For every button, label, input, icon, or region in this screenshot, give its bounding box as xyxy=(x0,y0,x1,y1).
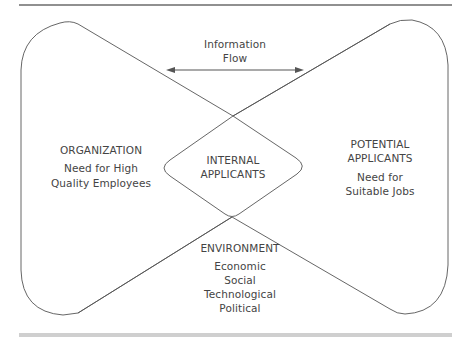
node-line: Need for xyxy=(330,170,430,184)
node-line: Social xyxy=(190,273,290,287)
node-line: Political xyxy=(190,301,290,315)
edge-label-line: Flow xyxy=(190,51,280,65)
node-title: INTERNAL xyxy=(183,153,283,167)
node-line: Quality Employees xyxy=(36,176,166,191)
information-flow-label: Information Flow xyxy=(190,37,280,65)
node-title: POTENTIAL xyxy=(330,137,430,151)
node-title: APPLICANTS xyxy=(330,151,430,165)
node-title: ENVIRONMENT xyxy=(190,241,290,255)
organization-label: ORGANIZATION Need for High Quality Emplo… xyxy=(36,143,166,191)
internal-applicants-label: INTERNAL APPLICANTS xyxy=(183,153,283,181)
edge-label-line: Information xyxy=(190,37,280,51)
node-line: Economic xyxy=(190,259,290,273)
node-line: Suitable Jobs xyxy=(330,184,430,198)
node-line: Technological xyxy=(190,287,290,301)
node-line: Need for High xyxy=(36,161,166,176)
potential-applicants-label: POTENTIAL APPLICANTS Need for Suitable J… xyxy=(330,137,430,198)
bottom-rule xyxy=(19,333,452,337)
node-title: APPLICANTS xyxy=(183,167,283,181)
environment-label: ENVIRONMENT Economic Social Technologica… xyxy=(190,241,290,315)
node-title: ORGANIZATION xyxy=(36,143,166,158)
information-flow-arrow xyxy=(166,67,304,73)
